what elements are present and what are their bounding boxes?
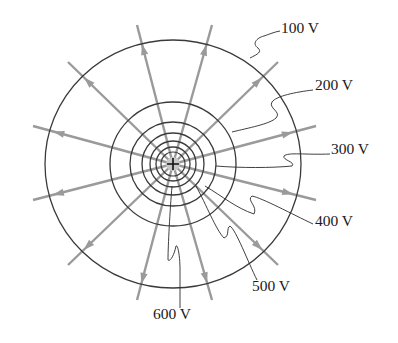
positive-charge (166, 157, 180, 171)
potential-label: 400 V (315, 213, 353, 229)
leader-400v (205, 186, 313, 224)
equipotential-diagram (0, 0, 398, 343)
leader-600v (168, 186, 180, 308)
arrowhead-icon (53, 131, 65, 138)
arrowhead-icon (53, 189, 65, 196)
arrowhead-icon (282, 188, 294, 195)
potential-label: 200 V (315, 77, 353, 93)
arrowhead-icon (141, 44, 148, 56)
arrowhead-icon (201, 272, 208, 284)
field-line (173, 62, 278, 164)
field-line (173, 164, 316, 200)
arrowhead-icon (200, 45, 207, 57)
potential-label: 300 V (331, 141, 369, 157)
arrowhead-icon (141, 272, 148, 284)
field-line (173, 126, 316, 164)
leader-300v (216, 154, 330, 168)
potential-label: 500 V (252, 278, 290, 294)
potential-label: 100 V (281, 20, 319, 36)
leader-100v (250, 31, 280, 58)
potential-label: 600 V (153, 306, 191, 322)
arrowhead-icon (281, 131, 293, 138)
